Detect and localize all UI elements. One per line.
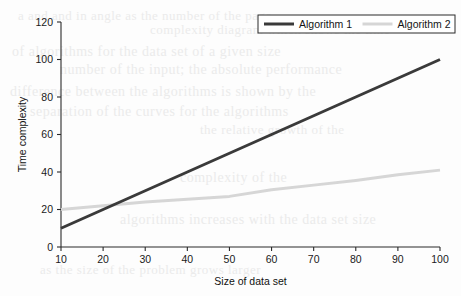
chart-legend: Algorithm 1Algorithm 2 bbox=[258, 15, 455, 33]
y-axis-title: Time complexity bbox=[16, 96, 28, 172]
x-axis-title: Size of data set bbox=[214, 275, 286, 287]
x-tick-label: 30 bbox=[139, 253, 151, 265]
y-tick-label: 20 bbox=[41, 203, 53, 215]
y-tick-label: 40 bbox=[41, 166, 53, 178]
x-tick-label: 20 bbox=[97, 253, 109, 265]
x-tick-label: 100 bbox=[431, 253, 449, 265]
line-chart: 020406080100120 102030405060708090100 Si… bbox=[0, 0, 461, 296]
y-tick-label: 120 bbox=[35, 16, 53, 28]
data-series-group bbox=[61, 60, 440, 229]
y-tick-label: 0 bbox=[47, 241, 53, 253]
x-tick-label: 90 bbox=[392, 253, 404, 265]
x-tick-label: 50 bbox=[224, 253, 236, 265]
chart-svg: 020406080100120 102030405060708090100 Si… bbox=[0, 0, 461, 296]
x-axis-tick-labels: 102030405060708090100 bbox=[55, 253, 449, 265]
axis-group: 020406080100120 102030405060708090100 bbox=[35, 16, 448, 265]
x-tick-label: 80 bbox=[350, 253, 362, 265]
x-tick-label: 10 bbox=[55, 253, 67, 265]
y-tick-label: 100 bbox=[35, 53, 53, 65]
y-axis-tick-labels: 020406080100120 bbox=[35, 16, 53, 253]
x-tick-label: 60 bbox=[266, 253, 278, 265]
x-axis-ticks bbox=[61, 247, 440, 251]
y-tick-label: 80 bbox=[41, 91, 53, 103]
x-tick-label: 40 bbox=[181, 253, 193, 265]
y-tick-label: 60 bbox=[41, 128, 53, 140]
legend-label-1: Algorithm 1 bbox=[299, 18, 352, 30]
series-line-algorithm-1 bbox=[61, 60, 440, 229]
x-tick-label: 70 bbox=[308, 253, 320, 265]
legend-label-2: Algorithm 2 bbox=[398, 18, 451, 30]
y-axis-ticks bbox=[57, 22, 61, 247]
